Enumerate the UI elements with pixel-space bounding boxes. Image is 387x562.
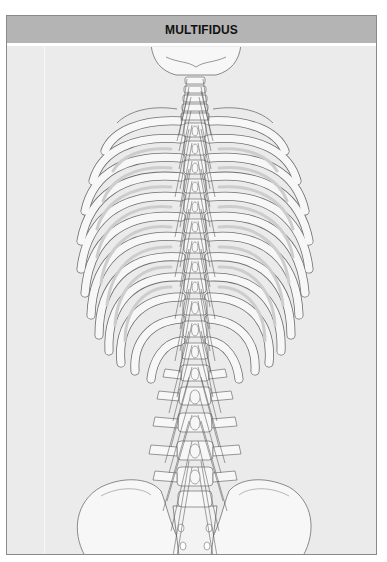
- anatomy-illustration: [7, 16, 377, 555]
- figure-title: MULTIFIDUS: [165, 23, 238, 37]
- skull-base: [151, 45, 241, 75]
- title-bar: MULTIFIDUS: [7, 16, 376, 46]
- ribs-left: [81, 121, 181, 379]
- figure-panel: MULTIFIDUS: [6, 15, 377, 555]
- ribs-right: [209, 121, 309, 379]
